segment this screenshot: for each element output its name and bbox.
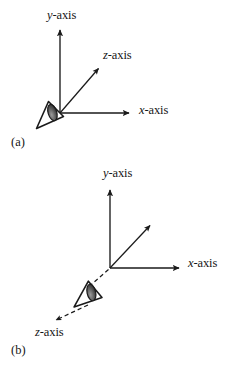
panel-b-caption: (b) <box>11 344 26 357</box>
panel-a-diagram <box>29 30 129 136</box>
panel-a-y-axis-label-suffix: -axis <box>52 8 76 22</box>
panel-a-caption: (a) <box>11 136 25 149</box>
panel-b-z-axis-dashed-lower <box>56 305 88 320</box>
panel-b-view-cone <box>67 281 102 315</box>
panel-a-x-axis-label-suffix: -axis <box>144 103 168 117</box>
panel-b-z-axis-label-suffix: -axis <box>40 325 64 339</box>
panel-b-viewer <box>67 279 104 315</box>
panel-a-x-axis-label: x-axis <box>139 104 168 117</box>
panel-a-view-cone <box>29 102 63 136</box>
panel-b-y-axis-label: y-axis <box>103 167 132 180</box>
panel-b-y-axis-label-suffix: -axis <box>108 166 132 180</box>
panel-a-z-axis-label-suffix: -axis <box>108 48 132 62</box>
panel-b-z-axis-label: z-axis <box>35 326 64 339</box>
panel-b-x-axis-label: x-axis <box>188 257 217 270</box>
panel-a-y-axis-label: y-axis <box>47 9 76 22</box>
panel-b-diagram <box>56 190 179 320</box>
panel-a-z-axis-label: z-axis <box>103 49 132 62</box>
panel-b-diagonal-axis-line <box>110 226 150 269</box>
panel-a-z-axis-line <box>60 69 99 114</box>
figure-canvas: y-axis z-axis x-axis (a) y-axis x-axis z… <box>0 0 232 365</box>
panel-b-x-axis-label-suffix: -axis <box>193 256 217 270</box>
